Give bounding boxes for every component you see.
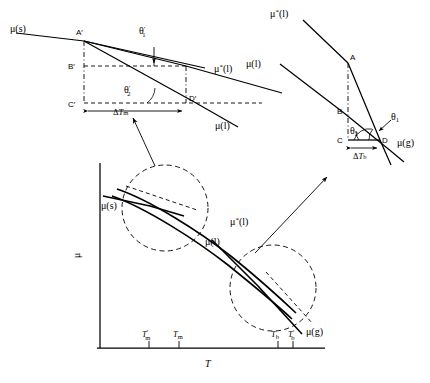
main-mu-l-label: μ(l) [205,236,220,248]
point-label-b-prime: B′ [68,62,75,71]
boiling-inset-mu-star-l-label: μ*(l) [270,8,288,20]
theta-1-label: θ1 [391,111,399,123]
theta-2-prime-label: θ′2 [124,84,131,97]
delta-tm-label: ΔTm [113,107,128,117]
point-label-b: B [337,107,342,116]
point-label-a-prime: A′ [76,28,83,37]
mu-vs-T-figure: μ(s) A′ B′ C′ D′ θ′1 θ′2 ΔTm μ*(l) μ(l) [0,0,430,383]
boiling-inset-mu-star-l-line [303,20,348,63]
melting-inset-mu-s-label: μ(s) [10,23,26,35]
main-mu-l-curve [112,196,292,319]
main-mu-star-l-label: μ*(l) [230,216,248,228]
melting-inset-mu-l-label: μ(l) [215,120,230,132]
point-label-c: C [337,136,343,145]
y-axis-label: μ [71,253,82,258]
melting-inset: μ(s) A′ B′ C′ D′ θ′1 θ′2 ΔTm μ*(l) μ(l) [10,23,282,132]
point-label-a: A [350,53,356,62]
boiling-inset-mu-g-label: μ(g) [397,137,414,149]
delta-tb-label: ΔTb [353,151,366,161]
boiling-inset-line-a-to-d [348,63,391,165]
tick-label-tm: Tm [173,329,183,340]
theta-2-prime-arc [147,88,155,103]
boiling-callout-leader [255,177,327,253]
main-mu-star-l-curve [117,189,296,313]
theta-1-arrow [379,120,391,131]
point-label-c-prime: C′ [68,100,76,109]
melting-inset-mu-star-l-label: μ*(l) [214,63,232,75]
melting-callout-circle [122,165,208,251]
boiling-inset-mu-l-line [280,64,344,113]
main-mu-s-label: μ(s) [101,200,117,212]
theta-1-prime-label: θ′1 [139,25,146,38]
tick-label-tb-prime: T′b [288,328,295,341]
melting-inset-mu-s-line [16,33,205,68]
melting-callout-leader [133,118,155,166]
tick-label-tm-prime: T′m [142,328,150,341]
boiling-inset-mu-l-label: μ(l) [246,58,261,70]
boiling-callout-circle [230,245,316,331]
melting-inset-mu-l-line [84,41,238,127]
boiling-inset: μ*(l) μ(l) A B C D θ1 θ2 ΔTb μ(g) [246,8,414,165]
point-label-d-prime: D′ [189,94,197,103]
x-axis-label: T [205,358,212,369]
theta-2-label: θ2 [350,125,358,137]
main-plot: μ T T′m Tm Tb T′b μ(s) μ*(l) μ(l) μ(g) [71,118,327,369]
point-label-d: D [382,136,388,145]
main-mu-g-label: μ(g) [306,326,323,338]
main-mu-g-line [212,240,302,334]
